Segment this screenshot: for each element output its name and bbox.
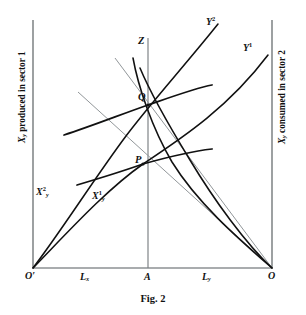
label-midpoint-a: A	[144, 272, 151, 282]
figure-caption: Fig. 2	[0, 293, 306, 304]
point-q-marker	[146, 103, 149, 106]
label-segment-lx-sub: x	[86, 275, 89, 282]
label-curve-x-y-1-sub: y	[102, 195, 105, 202]
label-curve-y-1: Y1	[243, 42, 252, 53]
figure-container: Xy produced in sector 1 Xy consumed in s…	[0, 0, 306, 315]
label-curve-y-1-sup: 1	[249, 41, 252, 48]
diagram-svg	[0, 0, 306, 315]
label-segment-lx: Lx	[80, 272, 89, 283]
left-axis-text: produced in sector 1	[17, 51, 27, 134]
curve-y-1	[140, 68, 272, 268]
label-curve-x-y-2-base: X	[36, 186, 43, 197]
curve-x-y-2	[33, 24, 218, 268]
label-point-p: P	[135, 155, 141, 166]
left-axis-variable: X	[17, 137, 27, 143]
label-curve-y-2: Y2	[206, 16, 215, 27]
label-curve-x-y-2-sub: y	[46, 191, 49, 198]
label-curve-x-y-2: X2y	[36, 186, 49, 198]
label-segment-ly: Ly	[202, 272, 211, 283]
label-curve-x-y-1-base: X	[92, 190, 99, 201]
point-p-marker	[141, 162, 144, 165]
label-origin-right: O	[268, 271, 275, 281]
left-axis-variable-subscript: y	[21, 134, 27, 137]
right-axis-text: consumed in sector 2	[277, 50, 287, 135]
label-segment-ly-sub: y	[208, 275, 211, 282]
curve-y-2	[133, 58, 272, 268]
label-curve-y-2-sup: 2	[212, 15, 215, 22]
isoquant-through-p	[77, 149, 212, 185]
label-curve-x-y-1: X1y	[92, 190, 105, 202]
label-origin-left: O′	[25, 271, 35, 281]
label-z: Z	[138, 36, 144, 47]
label-point-q: Q	[138, 92, 146, 103]
right-axis-label: Xy consumed in sector 2	[278, 27, 288, 167]
right-axis-variable-subscript: y	[281, 135, 287, 138]
left-axis-label: Xy produced in sector 1	[18, 27, 28, 167]
right-axis-variable: X	[277, 138, 287, 144]
